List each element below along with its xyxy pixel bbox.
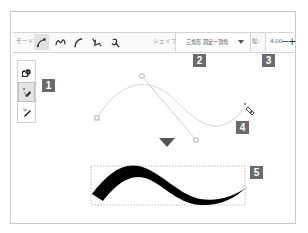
- end-point[interactable]: [243, 186, 246, 189]
- control-point-handle-2[interactable]: [194, 138, 199, 143]
- callout-badge-2: 2: [193, 54, 206, 67]
- drawing-canvas[interactable]: [0, 0, 308, 233]
- callout-badge-4: 4: [236, 121, 249, 134]
- pen-cursor-icon: [244, 103, 254, 115]
- callout-badge-1: 1: [42, 79, 55, 92]
- control-handle-line: [142, 76, 196, 140]
- control-point-handle[interactable]: [140, 74, 145, 79]
- tapered-stroke-result: [92, 166, 245, 205]
- anchor-point-start[interactable]: [95, 116, 99, 120]
- arrow-down-icon: [159, 138, 175, 147]
- preview-curve: [97, 85, 245, 126]
- callout-badge-3: 3: [262, 54, 275, 67]
- callout-badge-5: 5: [250, 166, 263, 179]
